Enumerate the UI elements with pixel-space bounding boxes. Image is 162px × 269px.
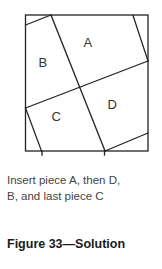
caption-line-1: Insert piece A, then D, — [7, 172, 157, 188]
cut-line-bottom-right — [105, 133, 148, 151]
solution-caption: Insert piece A, then D, B, and last piec… — [7, 172, 157, 204]
cut-line-top-right — [133, 16, 148, 62]
piece-label-a: A — [84, 35, 93, 50]
piece-label-b: B — [39, 55, 48, 70]
caption-line-2: B, and last piece C — [7, 188, 157, 204]
piece-label-c: C — [52, 109, 61, 124]
puzzle-solution-diagram: A B C D — [0, 0, 162, 162]
cut-line-bottom-left — [26, 108, 42, 151]
cut-line-main-diagonal — [51, 15, 105, 151]
piece-label-d: D — [108, 97, 117, 112]
figure-title: Figure 33—Solution — [7, 237, 125, 251]
cut-line-top-left — [26, 15, 52, 25]
